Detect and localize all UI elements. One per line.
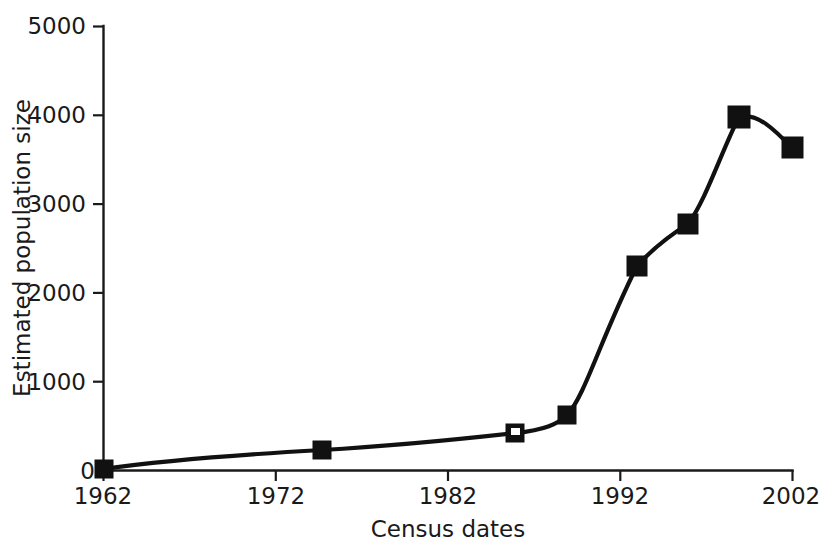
x-tick-label-1972: 1972 (247, 483, 306, 509)
y-tick-label-4000: 4000 (27, 102, 86, 128)
x-tick-label-1962: 1962 (74, 483, 133, 509)
data-point-2002 (782, 137, 803, 158)
data-point-1962 (95, 460, 113, 478)
data-point-1996 (678, 214, 698, 234)
x-tick-label-2002: 2002 (762, 483, 821, 509)
x-axis-title: Census dates (371, 516, 526, 542)
data-point-1989 (558, 406, 576, 424)
y-tick-label-0: 0 (80, 458, 95, 484)
data-point-1986 (506, 424, 524, 442)
y-tick-label-2000: 2000 (27, 280, 86, 306)
x-tick-label-1982: 1982 (419, 483, 478, 509)
chart-container: 5000 4000 3000 2000 1000 0 1962 1972 198… (0, 0, 831, 547)
y-tick-label-3000: 3000 (27, 191, 86, 217)
y-tick-label-5000: 5000 (27, 13, 86, 39)
x-tick-label-1992: 1992 (591, 483, 650, 509)
data-series-line (103, 116, 792, 469)
data-point-1975 (313, 441, 331, 459)
data-point-1993 (627, 256, 647, 276)
population-line-chart: 5000 4000 3000 2000 1000 0 1962 1972 198… (0, 0, 831, 547)
y-axis-title: Estimated population size (9, 99, 35, 397)
data-point-1999 (728, 106, 750, 128)
y-tick-label-1000: 1000 (27, 369, 86, 395)
